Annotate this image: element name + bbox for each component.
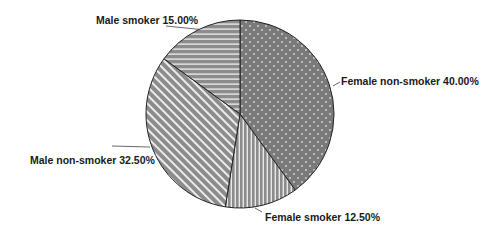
label-male-non-smoker: Male non-smoker 32.50%	[30, 154, 156, 166]
leader-line-male-smoker	[166, 26, 199, 29]
label-male-smoker: Male smoker 15.00%	[96, 14, 199, 26]
label-female-non-smoker: Female non-smoker 40.00%	[341, 75, 479, 87]
leader-line-male-non-smoker	[112, 146, 150, 147]
pie-slices	[146, 20, 334, 208]
pie-chart: Female non-smoker 40.00% Female smoker 1…	[0, 0, 496, 232]
label-female-smoker: Female smoker 12.50%	[265, 211, 381, 223]
leader-line-female-smoker	[255, 208, 262, 212]
leader-line-female-non-smoker	[333, 82, 340, 86]
